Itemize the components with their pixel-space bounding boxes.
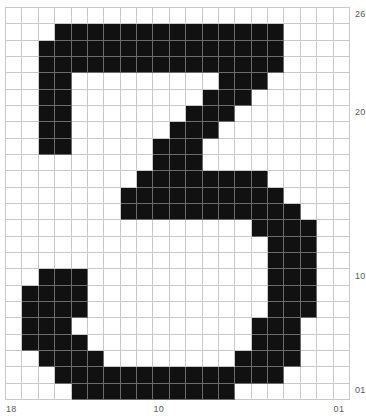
grid-cell [153, 188, 169, 204]
grid-cell [186, 8, 202, 24]
grid-cell [88, 57, 104, 73]
grid-cell [6, 41, 22, 57]
grid-cell [317, 237, 333, 253]
grid-cell [6, 204, 22, 220]
grid-cell [55, 122, 71, 138]
grid-cell [153, 106, 169, 122]
grid-cell [334, 204, 350, 220]
grid-cell [55, 335, 71, 351]
grid-cell [153, 286, 169, 302]
grid-cell [268, 139, 284, 155]
grid-cell [219, 335, 235, 351]
grid-cell [334, 8, 350, 24]
grid-cell [334, 73, 350, 89]
grid-cell [203, 367, 219, 383]
grid-cell [137, 24, 153, 40]
grid-cell [252, 155, 268, 171]
grid-cell [104, 269, 120, 285]
grid-cell [317, 106, 333, 122]
grid-cell [252, 335, 268, 351]
grid-cell [39, 90, 55, 106]
grid-cell [39, 302, 55, 318]
grid-cell [235, 384, 251, 400]
grid-cell [153, 302, 169, 318]
y-tick-label-10: 10 [355, 271, 366, 281]
grid-cell [235, 351, 251, 367]
grid-cell [235, 155, 251, 171]
grid-cell [170, 41, 186, 57]
grid-cell [334, 24, 350, 40]
grid-cell [55, 269, 71, 285]
grid-cell [301, 286, 317, 302]
grid-cell [284, 204, 300, 220]
grid-cell [6, 106, 22, 122]
grid-cell [22, 204, 38, 220]
grid-cell [104, 57, 120, 73]
grid-cell [137, 188, 153, 204]
grid-cell [170, 286, 186, 302]
grid-cell [72, 335, 88, 351]
grid-cell [104, 122, 120, 138]
grid-cell [203, 8, 219, 24]
grid-cell [284, 122, 300, 138]
grid-cell [203, 188, 219, 204]
grid-cell [170, 188, 186, 204]
y-tick-label-26: 26 [355, 9, 366, 19]
grid-cell [186, 286, 202, 302]
grid-cell [88, 335, 104, 351]
grid-cell [301, 384, 317, 400]
grid-cell [301, 335, 317, 351]
grid-cell [6, 155, 22, 171]
grid-cell [121, 57, 137, 73]
grid-cell [252, 220, 268, 236]
grid-cell [301, 73, 317, 89]
grid-cell [301, 220, 317, 236]
grid-cell [22, 335, 38, 351]
grid-cell [252, 351, 268, 367]
pixel-grid-figure: 26201001181001 [0, 0, 366, 416]
grid-cell [301, 8, 317, 24]
grid-cell [153, 335, 169, 351]
grid-cell [284, 24, 300, 40]
grid-cell [301, 302, 317, 318]
grid-cell [203, 204, 219, 220]
grid-cell [22, 155, 38, 171]
grid-cell [22, 286, 38, 302]
grid-cell [301, 253, 317, 269]
y-tick-label-01: 01 [355, 385, 366, 395]
grid-cell [252, 139, 268, 155]
grid-cell [186, 269, 202, 285]
grid-cell [39, 318, 55, 334]
grid-cell [317, 139, 333, 155]
grid-cell [6, 122, 22, 138]
grid-cell [137, 286, 153, 302]
grid-cell [235, 237, 251, 253]
grid-cell [268, 204, 284, 220]
grid-cell [153, 57, 169, 73]
grid-cell [170, 237, 186, 253]
grid-cell [137, 139, 153, 155]
grid-cell [121, 318, 137, 334]
grid-cell [72, 73, 88, 89]
grid-cell [170, 253, 186, 269]
grid-cell [284, 286, 300, 302]
grid-cell [186, 220, 202, 236]
grid-cell [334, 384, 350, 400]
grid-cell [104, 351, 120, 367]
x-tick-label-18: 18 [6, 404, 17, 414]
grid-cell [203, 106, 219, 122]
grid-cell [104, 139, 120, 155]
grid-cell [235, 24, 251, 40]
grid-cell [6, 237, 22, 253]
grid-cell [121, 269, 137, 285]
grid-cell [284, 302, 300, 318]
grid-cell [22, 318, 38, 334]
grid-cell [284, 90, 300, 106]
grid-cell [55, 90, 71, 106]
grid-cell [88, 269, 104, 285]
grid-cell [153, 24, 169, 40]
grid-cell [186, 318, 202, 334]
grid-cell [22, 384, 38, 400]
grid-cell [317, 73, 333, 89]
grid-cell [88, 204, 104, 220]
